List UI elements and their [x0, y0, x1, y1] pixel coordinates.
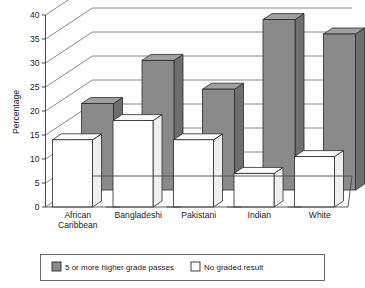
bar-gray-side — [356, 28, 365, 190]
bar-white-side — [335, 151, 344, 207]
y-axis-labels-group: 0510152025303540 — [30, 10, 40, 212]
category-label: Pakistani — [181, 210, 216, 220]
legend-swatch-white — [191, 262, 200, 271]
category-label-line: Indian — [248, 210, 272, 220]
bar-white-top — [295, 151, 344, 157]
y-tick-label: 10 — [30, 154, 40, 164]
bar-gray-face — [263, 20, 295, 190]
category-label: AfricanCaribbean — [58, 210, 98, 230]
y-tick-label: 0 — [35, 202, 40, 212]
category-label-line: Pakistani — [181, 210, 216, 220]
category-label: Bangladeshi — [115, 210, 162, 220]
y-axis-ticks-group — [42, 15, 46, 207]
depth-gridline — [46, 32, 93, 63]
bar-white-top — [234, 167, 283, 173]
legend-label: No graded result — [204, 263, 264, 272]
y-tick-label: 20 — [30, 106, 40, 116]
legend-label: 5 or more higher grade passes — [65, 263, 174, 272]
legend-group: 5 or more higher grade passesNo graded r… — [52, 262, 264, 272]
bar-white-face — [174, 140, 214, 207]
y-tick-label: 15 — [30, 130, 40, 140]
y-tick-label: 30 — [30, 58, 40, 68]
bar-white-face — [113, 121, 153, 207]
bar-white-side — [93, 134, 102, 207]
category-labels-group: AfricanCaribbeanBangladeshiPakistaniIndi… — [58, 210, 331, 230]
chart-container: 0510152025303540 AfricanCaribbeanBanglad… — [0, 0, 365, 288]
category-label: White — [309, 210, 331, 220]
legend-swatch-gray — [52, 262, 61, 271]
y-tick-label: 35 — [30, 34, 40, 44]
y-tick-label: 40 — [30, 10, 40, 20]
y-axis-title: Percentage — [11, 90, 21, 134]
depth-gridline — [46, 56, 93, 87]
bar-group — [53, 98, 123, 207]
bar-white-side — [214, 134, 223, 207]
bar-white-side — [153, 115, 162, 207]
bar-group — [106, 54, 183, 207]
bar-white-face — [53, 140, 93, 207]
bars-group — [53, 14, 365, 207]
bar-white-face — [234, 173, 274, 207]
bar-white-face — [295, 157, 335, 207]
y-tick-label: 5 — [35, 178, 40, 188]
bar-chart: 0510152025303540 AfricanCaribbeanBanglad… — [0, 0, 365, 288]
bar-white-top — [113, 115, 162, 121]
category-label: Indian — [248, 210, 272, 220]
category-label-line: Caribbean — [58, 220, 98, 230]
bar-white-top — [174, 134, 223, 140]
depth-gridline — [46, 8, 93, 39]
bar-white-top — [53, 134, 102, 140]
category-label-line: African — [64, 210, 91, 220]
y-tick-label: 25 — [30, 82, 40, 92]
bar-white-side — [274, 167, 283, 207]
category-label-line: White — [309, 210, 331, 220]
category-label-line: Bangladeshi — [115, 210, 162, 220]
